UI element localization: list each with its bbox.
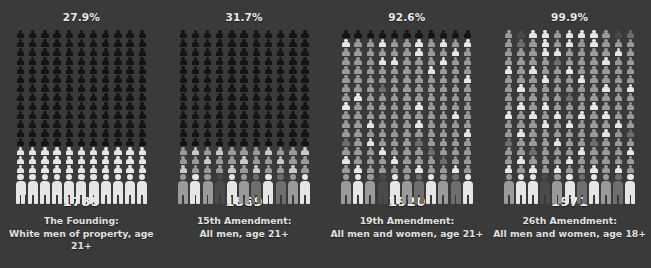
- person-icon: [250, 47, 262, 56]
- person-icon: [588, 164, 600, 173]
- person-icon: [226, 119, 238, 128]
- person-icon: [612, 47, 624, 56]
- person-icon: [238, 119, 250, 128]
- person-icon: [299, 128, 311, 137]
- person-icon: [564, 74, 576, 83]
- panel-1920: 92.6%192019th Amendment:All men and wome…: [326, 0, 489, 268]
- pictogram-row: [503, 47, 637, 56]
- pictogram-grid: [14, 29, 148, 187]
- person-icon: [588, 65, 600, 74]
- person-icon: [87, 65, 99, 74]
- person-icon: [39, 110, 51, 119]
- person-icon: [262, 119, 274, 128]
- person-icon: [449, 137, 461, 146]
- person-icon: [27, 110, 39, 119]
- person-icon: [39, 65, 51, 74]
- person-icon: [14, 56, 26, 65]
- person-icon: [551, 65, 563, 74]
- pictogram-row: [177, 110, 311, 119]
- person-icon: [449, 65, 461, 74]
- person-icon: [588, 38, 600, 47]
- person-icon: [551, 164, 563, 173]
- person-icon: [250, 29, 262, 38]
- person-icon: [299, 164, 311, 173]
- person-icon: [624, 101, 636, 110]
- person-icon: [503, 83, 515, 92]
- person-icon: [214, 29, 226, 38]
- person-icon: [401, 38, 413, 47]
- person-icon: [238, 110, 250, 119]
- person-icon: [262, 164, 274, 173]
- person-icon: [551, 128, 563, 137]
- pictogram-row: [340, 83, 474, 92]
- person-icon-large: [413, 174, 425, 204]
- person-icon: [462, 119, 474, 128]
- person-icon: [75, 38, 87, 47]
- person-icon: [376, 47, 388, 56]
- person-icon: [51, 137, 63, 146]
- person-icon: [287, 74, 299, 83]
- person-icon: [527, 47, 539, 56]
- person-icon: [425, 101, 437, 110]
- person-icon: [437, 47, 449, 56]
- person-icon: [352, 119, 364, 128]
- person-icon: [624, 146, 636, 155]
- person-icon: [527, 137, 539, 146]
- person-icon: [364, 74, 376, 83]
- person-icon: [202, 164, 214, 173]
- person-icon: [177, 56, 189, 65]
- person-icon: [401, 128, 413, 137]
- person-icon: [238, 137, 250, 146]
- person-icon: [503, 29, 515, 38]
- person-icon: [39, 146, 51, 155]
- person-icon: [177, 146, 189, 155]
- person-icon: [214, 101, 226, 110]
- person-icon: [624, 38, 636, 47]
- person-icon: [376, 128, 388, 137]
- person-icon: [250, 155, 262, 164]
- voting-eligibility-infographic: 27.9%1789The Founding:White men of prope…: [0, 0, 651, 268]
- pictogram-row: [503, 110, 637, 119]
- person-icon: [287, 110, 299, 119]
- person-icon: [250, 74, 262, 83]
- person-icon: [527, 146, 539, 155]
- person-icon: [600, 137, 612, 146]
- person-icon-large: [112, 174, 124, 204]
- person-icon: [63, 155, 75, 164]
- person-icon: [364, 119, 376, 128]
- person-icon: [226, 65, 238, 74]
- person-icon: [437, 65, 449, 74]
- person-icon: [515, 65, 527, 74]
- person-icon: [425, 155, 437, 164]
- person-icon: [238, 74, 250, 83]
- person-icon: [27, 146, 39, 155]
- person-icon: [51, 83, 63, 92]
- person-icon: [340, 29, 352, 38]
- person-icon: [299, 92, 311, 101]
- person-icon: [250, 164, 262, 173]
- person-icon: [564, 101, 576, 110]
- person-icon: [39, 92, 51, 101]
- person-icon: [75, 65, 87, 74]
- person-icon: [51, 146, 63, 155]
- person-icon: [449, 83, 461, 92]
- person-icon: [275, 56, 287, 65]
- person-icon: [51, 56, 63, 65]
- person-icon-large: [189, 174, 201, 204]
- person-icon: [389, 164, 401, 173]
- person-icon: [515, 74, 527, 83]
- person-icon: [449, 29, 461, 38]
- person-icon: [437, 29, 449, 38]
- person-icon: [352, 29, 364, 38]
- person-icon: [299, 101, 311, 110]
- person-icon: [600, 74, 612, 83]
- person-icon: [189, 119, 201, 128]
- person-icon: [588, 110, 600, 119]
- person-icon: [112, 56, 124, 65]
- person-icon: [238, 83, 250, 92]
- person-icon: [437, 74, 449, 83]
- person-icon: [136, 146, 148, 155]
- person-icon-large: [564, 174, 576, 204]
- person-icon: [75, 164, 87, 173]
- person-icon: [600, 83, 612, 92]
